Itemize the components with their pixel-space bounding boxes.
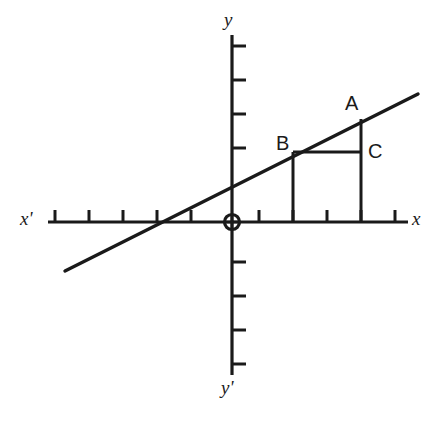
y-axis-negative-ticks (232, 262, 246, 364)
x-axis-positive-label: x (412, 209, 420, 228)
point-label-b: B (276, 133, 289, 153)
point-label-a: A (345, 93, 358, 113)
point-label-c: C (368, 141, 382, 161)
origin-marker (224, 214, 240, 230)
y-axis-positive-label: y (224, 10, 232, 29)
graph-figure: x' x y y' A B C (0, 0, 438, 422)
x-axis-negative-label: x' (20, 209, 33, 228)
x-axis-positive-ticks (259, 210, 395, 222)
y-axis-positive-ticks (232, 46, 246, 148)
function-line (65, 94, 418, 271)
x-axis-negative-ticks (55, 210, 191, 222)
y-axis-negative-label: y' (221, 378, 234, 397)
coordinate-plane-svg (0, 0, 438, 422)
